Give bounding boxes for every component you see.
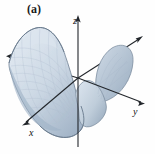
y-axis-arrowhead <box>138 101 146 106</box>
y-axis-label: y <box>133 107 137 117</box>
surface-plot <box>0 0 155 154</box>
x-axis-arrowhead <box>22 119 31 125</box>
x-axis-label: x <box>29 128 33 138</box>
z-axis-label: z <box>73 16 77 26</box>
x-axis-back-arrowhead <box>136 36 143 43</box>
figure-panel: (a) <box>0 0 155 154</box>
